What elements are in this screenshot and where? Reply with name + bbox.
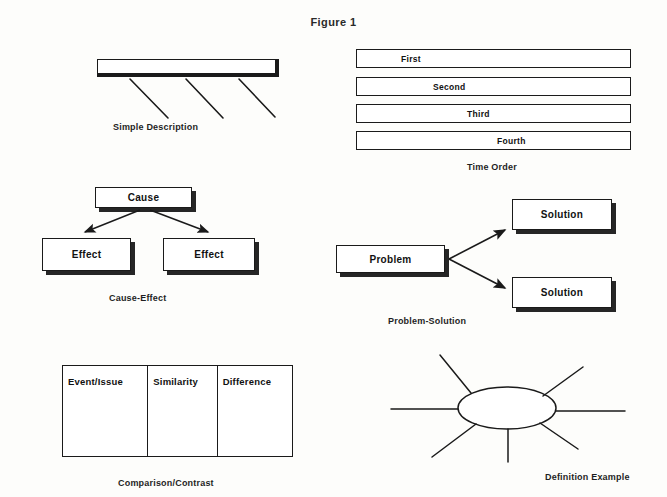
table-column-event-issue: Event/Issue [63,366,148,456]
figure-canvas: Figure 1 Simple Description First Second… [0,0,667,497]
effect-box-right: Effect [163,238,255,271]
time-order-label-2: Second [433,82,466,92]
table-header-difference: Difference [223,376,271,387]
effect-box-left: Effect [42,238,131,271]
table-column-similarity: Similarity [148,366,217,456]
time-order-label-1: First [401,54,421,64]
definition-example-web [391,355,625,462]
caption-problem-solution: Problem-Solution [388,316,466,326]
cause-effect-arrows [85,210,208,232]
problem-box: Problem [336,245,445,273]
figure-title: Figure 1 [0,16,667,28]
caption-cause-effect: Cause-Effect [109,293,166,303]
table-header-similarity: Similarity [153,376,198,387]
table-column-difference: Difference [218,366,292,456]
time-order-label-4: Fourth [497,136,526,146]
simple-description-bar [97,59,279,77]
problem-box-label: Problem [369,254,411,265]
problem-solution-arrows [449,230,505,288]
caption-definition-example: Definition Example [545,472,630,482]
time-order-bar-2: Second [356,77,631,96]
caption-simple-description: Simple Description [113,122,198,132]
definition-ellipse [458,387,556,429]
solution-box-bottom: Solution [512,277,612,308]
caption-time-order: Time Order [467,162,517,172]
effect-box-left-label: Effect [72,249,102,260]
time-order-label-3: Third [467,109,490,119]
cause-box: Cause [95,187,192,208]
time-order-bar-4: Fourth [356,131,631,150]
comparison-contrast-table: Event/Issue Similarity Difference [62,365,293,457]
effect-box-right-label: Effect [194,249,224,260]
caption-comparison-contrast: Comparison/Contrast [118,478,214,488]
simple-description-spokes [130,79,275,118]
solution-box-bottom-label: Solution [541,287,583,298]
solution-box-top: Solution [512,199,612,230]
cause-box-label: Cause [128,192,160,203]
table-header-event-issue: Event/Issue [68,376,123,387]
solution-box-top-label: Solution [541,209,583,220]
time-order-bar-1: First [356,49,631,68]
time-order-bar-3: Third [356,104,631,123]
